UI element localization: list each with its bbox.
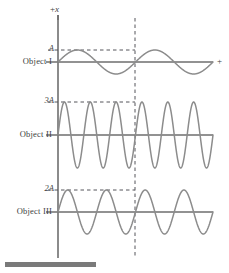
amplitude-label-object-iii: 2A [28, 183, 54, 193]
amplitude-label-object-i: A [30, 43, 54, 53]
vertical-axis-label-variable: x [55, 4, 59, 14]
series-label-object-i: Object I [0, 56, 52, 66]
horizontal-axis-label: + [217, 56, 222, 66]
bottom-bar [5, 262, 96, 267]
series-label-object-iii: Object III [0, 206, 52, 216]
series-label-object-ii: Object II [0, 129, 52, 139]
amplitude-label-object-ii: 3A [28, 95, 54, 105]
wave-comparison-figure: +x + Object I Object II Object III A 3A … [0, 0, 229, 273]
svg-root [46, 15, 213, 258]
vertical-axis-label: +x [50, 4, 59, 14]
